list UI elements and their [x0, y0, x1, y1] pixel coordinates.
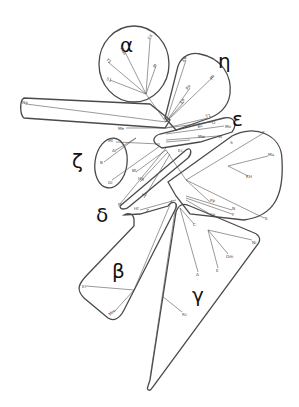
- leaf-label: Tc: [263, 216, 269, 221]
- leaf-label: F: [232, 212, 235, 217]
- leaf-label: Ep: [179, 97, 186, 104]
- leaf-label: Bt: [132, 168, 137, 173]
- leaf-label: Sp: [210, 212, 216, 217]
- group-label-eta: η: [218, 49, 231, 73]
- leaf-label: El: [82, 284, 86, 289]
- group-label-gamma: γ: [192, 283, 204, 307]
- leaf-label: Ar: [112, 148, 117, 153]
- leaf-label: E: [216, 268, 219, 273]
- leaf-label: Pr: [118, 202, 122, 207]
- leaf-label: Mi: [209, 74, 216, 81]
- group-alpha-hull: [99, 26, 169, 102]
- leaf-label: Pp: [210, 198, 216, 203]
- group-label-delta: δ: [96, 203, 108, 227]
- leaf-label: Ni: [252, 240, 256, 245]
- leaf-label: Ht: [134, 206, 139, 211]
- leaf-label: N: [232, 206, 235, 211]
- group-label-zeta: ζ: [72, 149, 83, 173]
- leaf-label: Mo: [225, 124, 232, 129]
- leaf-label: Hg: [138, 176, 144, 181]
- leaf-label: Ec: [178, 148, 184, 153]
- leaf-label: Np: [22, 100, 28, 105]
- leaf-label: Me: [118, 126, 125, 131]
- leaf-label: Z: [146, 208, 149, 213]
- leaf-label: Mu: [268, 152, 275, 157]
- leaf-label: A: [196, 272, 199, 277]
- group-label-epsilon: ε: [232, 107, 243, 131]
- leaf-label: K: [262, 130, 265, 135]
- leaf-label: C: [193, 222, 196, 227]
- leaf-label: Ed: [147, 33, 154, 40]
- leaf-labels: Ed Mas Y1 M S1 EB Pa Mi Ep T1 Bc O Mo Mw…: [22, 33, 275, 317]
- leaf-label: Mw: [198, 134, 206, 139]
- leaf-label: Rc: [182, 312, 188, 317]
- leaf-label: S1: [106, 76, 113, 83]
- group-label-beta: β: [112, 259, 125, 283]
- leaf-label: Mm: [107, 308, 116, 317]
- leaf-label: Pa: [185, 83, 192, 90]
- leaf-label: Mt: [108, 138, 114, 143]
- leaf-label: Y1: [105, 56, 113, 64]
- leaf-label: Lc: [142, 192, 147, 197]
- leaf-label: Gl: [108, 180, 112, 185]
- leaf-label: B: [100, 160, 103, 165]
- leaf-label: S: [230, 140, 233, 145]
- phylogenetic-diagram: α η ε ζ δ β γ Ed Mas Y1 M S1 EB Pa Mi Ep…: [0, 0, 299, 407]
- leaf-label: M: [152, 62, 158, 68]
- leaf-label: W: [218, 134, 222, 139]
- leaf-label: KH: [246, 174, 252, 179]
- leaf-label: Om: [226, 254, 233, 259]
